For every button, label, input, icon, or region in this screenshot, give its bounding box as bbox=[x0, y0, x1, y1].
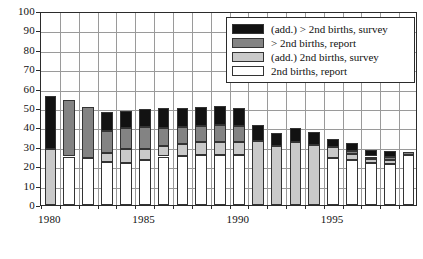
x-tick-label-1980: 1980 bbox=[38, 213, 61, 225]
bar-segment-1995-series-1 bbox=[327, 147, 339, 159]
bar-segment-1991-series-1 bbox=[252, 141, 264, 205]
x-tick-mark-1995 bbox=[324, 205, 325, 209]
bar-segment-1987-series-3 bbox=[177, 108, 189, 127]
bar-segment-1983-series-1 bbox=[101, 153, 113, 163]
x-tick-mark-1984 bbox=[116, 205, 117, 209]
y-tick-label-30: 30 bbox=[0, 142, 35, 153]
y-tick-mark-0 bbox=[36, 206, 40, 207]
x-tick-mark-1999 bbox=[399, 205, 400, 209]
bar-1981 bbox=[63, 11, 75, 205]
gridline-x-1981 bbox=[60, 13, 61, 205]
bar-segment-1996-series-1 bbox=[346, 154, 358, 161]
bar-segment-1987-series-2 bbox=[177, 127, 189, 143]
bar-segment-1980-series-1 bbox=[45, 149, 57, 205]
x-tick-mark-1988 bbox=[192, 205, 193, 209]
bar-segment-1982-series-2 bbox=[82, 107, 94, 158]
bar-segment-1988-series-2 bbox=[195, 126, 207, 142]
legend-item-label: (add.) > 2nd births, survey bbox=[271, 24, 388, 35]
bar-segment-1992-series-1 bbox=[271, 146, 283, 205]
gridline-x-1989 bbox=[211, 13, 212, 205]
y-tick-label-60: 60 bbox=[0, 84, 35, 95]
bar-1989 bbox=[214, 11, 226, 205]
legend-swatch-icon bbox=[232, 66, 264, 76]
bar-segment-1990-series-0 bbox=[233, 155, 245, 205]
legend-item: (add.) 2nd births, survey bbox=[232, 50, 408, 64]
bar-1980 bbox=[45, 11, 57, 205]
x-tick-mark-1994 bbox=[305, 205, 306, 209]
x-tick-mark-1986 bbox=[154, 205, 155, 209]
y-tick-label-20: 20 bbox=[0, 161, 35, 172]
chart-legend: (add.) > 2nd births, survey> 2nd births,… bbox=[226, 17, 415, 83]
bar-segment-1990-series-1 bbox=[233, 142, 245, 155]
bar-segment-1999-series-2 bbox=[403, 152, 415, 155]
x-tick-mark-1981 bbox=[60, 205, 61, 209]
bar-segment-1986-series-1 bbox=[158, 146, 170, 157]
bar-segment-1983-series-3 bbox=[101, 112, 113, 131]
bar-segment-1984-series-2 bbox=[120, 128, 132, 148]
legend-item-label: > 2nd births, report bbox=[271, 38, 356, 49]
bar-segment-1993-series-1 bbox=[290, 142, 302, 205]
bar-segment-1997-series-3 bbox=[365, 150, 377, 157]
x-tick-mark-1991 bbox=[248, 205, 249, 209]
bar-segment-1996-series-2 bbox=[346, 151, 358, 154]
gridline-x-1988 bbox=[192, 13, 193, 205]
bar-1982 bbox=[82, 11, 94, 205]
bar-segment-1993-series-3 bbox=[290, 128, 302, 142]
bar-segment-1998-series-3 bbox=[384, 151, 396, 158]
gridline-x-1986 bbox=[154, 13, 155, 205]
bar-segment-1997-series-1 bbox=[365, 159, 377, 163]
y-tick-label-80: 80 bbox=[0, 45, 35, 56]
bar-1983 bbox=[101, 11, 113, 205]
x-tick-mark-1982 bbox=[79, 205, 80, 209]
bar-segment-1987-series-0 bbox=[177, 156, 189, 205]
x-tick-mark-1985 bbox=[135, 205, 136, 209]
legend-swatch-icon bbox=[232, 24, 264, 34]
bar-segment-1998-series-1 bbox=[384, 160, 396, 164]
bar-1985 bbox=[139, 11, 151, 205]
legend-item: (add.) > 2nd births, survey bbox=[232, 22, 408, 36]
stacked-bar-chart-figure: 0102030405060708090100 1980198519901995 … bbox=[0, 0, 423, 259]
bar-segment-1983-series-2 bbox=[101, 131, 113, 152]
bar-segment-1989-series-2 bbox=[214, 125, 226, 141]
bar-segment-1991-series-3 bbox=[252, 125, 264, 141]
bar-segment-1988-series-1 bbox=[195, 142, 207, 155]
bar-segment-1982-series-0 bbox=[82, 158, 94, 205]
bar-segment-1981-series-0 bbox=[63, 157, 75, 206]
bar-1988 bbox=[195, 11, 207, 205]
bar-segment-1985-series-3 bbox=[139, 109, 151, 127]
x-tick-mark-1980 bbox=[41, 205, 42, 209]
x-tick-mark-1998 bbox=[380, 205, 381, 209]
legend-swatch-icon bbox=[232, 38, 264, 48]
bar-segment-1989-series-0 bbox=[214, 155, 226, 205]
bar-segment-1998-series-2 bbox=[384, 157, 396, 160]
bar-segment-1990-series-2 bbox=[233, 126, 245, 142]
y-tick-label-100: 100 bbox=[0, 6, 35, 17]
bar-segment-1981-series-2 bbox=[63, 100, 75, 156]
legend-item: > 2nd births, report bbox=[232, 36, 408, 50]
bar-segment-1988-series-3 bbox=[195, 107, 207, 126]
bar-segment-1988-series-0 bbox=[195, 155, 207, 205]
bar-segment-1992-series-3 bbox=[271, 133, 283, 146]
x-tick-mark-1983 bbox=[98, 205, 99, 209]
bar-segment-1994-series-3 bbox=[308, 132, 320, 145]
gridline-x-1987 bbox=[173, 13, 174, 205]
bar-segment-1996-series-0 bbox=[346, 160, 358, 205]
bar-segment-1995-series-0 bbox=[327, 158, 339, 205]
legend-item: 2nd births, report bbox=[232, 64, 408, 78]
x-tick-label-1995: 1995 bbox=[321, 213, 344, 225]
bar-segment-1984-series-1 bbox=[120, 149, 132, 164]
bar-segment-1989-series-1 bbox=[214, 142, 226, 155]
bar-segment-1980-series-3 bbox=[45, 96, 57, 148]
bar-segment-1998-series-0 bbox=[384, 164, 396, 205]
x-tick-mark-1989 bbox=[211, 205, 212, 209]
x-tick-mark-1992 bbox=[267, 205, 268, 209]
y-tick-label-10: 10 bbox=[0, 181, 35, 192]
y-tick-label-0: 0 bbox=[0, 200, 35, 211]
legend-item-label: 2nd births, report bbox=[271, 66, 347, 77]
bar-1987 bbox=[177, 11, 189, 205]
bar-segment-1985-series-0 bbox=[139, 160, 151, 205]
bar-segment-1994-series-1 bbox=[308, 145, 320, 205]
bar-segment-1990-series-3 bbox=[233, 108, 245, 126]
bar-segment-1985-series-1 bbox=[139, 149, 151, 161]
x-tick-mark-1996 bbox=[343, 205, 344, 209]
